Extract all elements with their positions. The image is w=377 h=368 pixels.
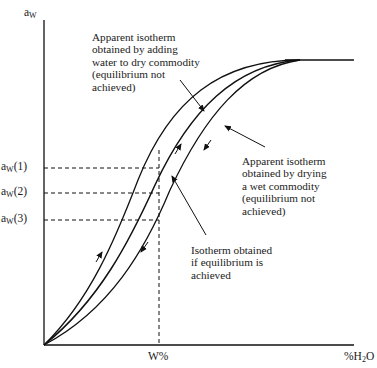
aw2-label: aW(2)	[1, 185, 27, 199]
desorption-annotation: Apparent isotherm obtained by drying a w…	[242, 155, 327, 217]
w-percent-label: W%	[148, 350, 168, 362]
equilibrium-annotation: Isotherm obtained if equilibrium is achi…	[191, 244, 272, 281]
y-axis-label: aW	[24, 6, 37, 20]
aw3-label: aW(3)	[1, 212, 27, 226]
arrow-down-upper-icon	[204, 140, 211, 150]
aw1-label: aW(1)	[1, 160, 27, 174]
arrow-up-lower-icon	[96, 252, 102, 262]
adsorption-annotation: Apparent isotherm obtained by adding wat…	[92, 31, 200, 93]
desorption-leader	[225, 126, 265, 147]
x-axis-label: %H2O	[344, 350, 374, 364]
equilibrium-leader	[172, 176, 206, 235]
